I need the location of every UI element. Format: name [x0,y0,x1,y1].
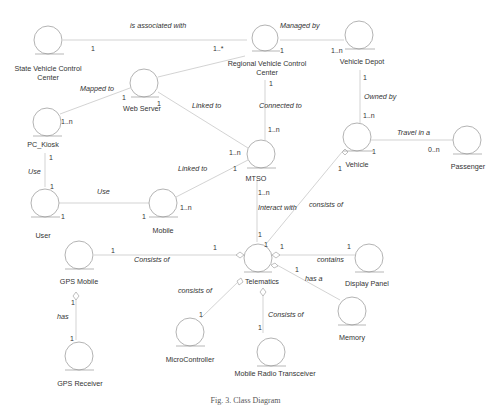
relation-label: is associated with [130,21,186,30]
relation-label: consists of [309,200,344,209]
multiplicity: 1 [372,148,376,155]
relation-label: has a [305,274,323,283]
relation-label: Travel in a [397,128,430,137]
class-label: MicroController [166,355,215,364]
line-vehicle-telematics [266,152,342,244]
class-circle-web-server[interactable] [130,69,158,97]
class-label: Center [256,68,278,77]
multiplicity: 0..n [428,146,440,153]
relation-label: Managed by [280,21,320,30]
class-circle-gps-receiver[interactable] [65,342,93,370]
multiplicity: 1 [142,213,146,220]
multiplicity: 1 [347,243,351,250]
class-labels: State Vehicle Control Center Regional Ve… [14,57,485,388]
relation-label: contains [317,255,344,264]
class-label: Mobile Radio Transceiver [234,369,316,378]
relation-label: Consists of [268,310,305,319]
class-label: Passenger [451,162,486,171]
multiplicity: 1 [71,299,75,306]
baseline-bars [31,49,482,370]
multiplicity: 1 [49,154,53,161]
multiplicity: 1 [338,165,342,172]
class-circle-microcontroller[interactable] [176,318,204,346]
multiplicity: 1..n [268,126,280,133]
multiplicity: 1..n [363,112,375,119]
multiplicity: 1 [199,311,203,318]
class-circle-display-panel[interactable] [355,244,383,272]
class-circle-depot[interactable] [345,21,373,49]
class-circle-vehicle[interactable] [343,123,371,151]
class-circle-mobile[interactable] [149,189,177,217]
class-label: Telematics [245,277,279,286]
multiplicity: 1..n [331,47,343,54]
class-label: Vehicle Depot [340,57,384,66]
relation-label: has [57,312,69,321]
class-circle-gps-mobile[interactable] [65,241,93,269]
class-circle-memory[interactable] [338,297,366,325]
relation-label: Use [97,187,110,196]
multiplicity: 1..n [61,118,73,125]
relation-label: Owned by [364,92,397,101]
multiplicity: 1 [258,231,262,238]
class-circle-mtso[interactable] [247,140,275,168]
class-label: MTSO [246,174,267,183]
relation-label: Consists of [134,255,171,264]
multiplicity: 1 [111,247,115,254]
multiplicity: 1..n [229,149,241,156]
class-label: GPS Receiver [57,379,103,388]
multiplicity: 1 [269,80,273,87]
class-circle-telematics[interactable] [244,244,272,272]
class-label: Memory [339,333,365,342]
class-label: GPS Mobile [60,277,98,286]
class-circle-passenger[interactable] [453,126,481,154]
multiplicity: 1 [50,183,54,190]
class-label: PC_Kiosk [27,140,59,149]
relation-label: Linked to [178,164,207,173]
diamond-icon [260,288,266,296]
class-circle-pc-kiosk[interactable] [33,108,61,136]
relation-label: consists of [178,286,213,295]
relation-label: Connected to [259,101,302,110]
diamond-icon [271,263,278,268]
class-circle-radio-transceiver[interactable] [257,338,285,366]
class-circle-user[interactable] [31,189,59,217]
class-circle-rvcc[interactable] [252,25,278,51]
class-label: Center [37,73,59,82]
multiplicity: 1 [258,324,262,331]
multiplicity: 1 [91,45,95,52]
relation-label: Interact with [258,203,297,212]
class-label: Web Server [123,104,161,113]
multiplicity: 1 [233,165,237,172]
class-circle-svcc[interactable] [34,26,62,54]
multiplicity: 1 [122,94,126,101]
multiplicity: 1 [61,213,65,220]
multiplicity: 1..* [213,45,224,52]
diamond-icon [236,252,244,258]
class-label: Regional Vehicle Control [228,59,307,68]
relation-label: Use [28,167,41,176]
multiplicity: 1 [213,244,217,251]
relation-label: Linked to [192,101,221,110]
multiplicity: 1..n [180,204,192,211]
multiplicity: 1 [363,74,367,81]
class-label: Display Panel [345,279,389,288]
class-label: Mobile [152,226,173,235]
multiplicity: 1 [280,47,284,54]
multiplicity: 1..n [258,189,270,196]
multiplicity: 1 [70,335,74,342]
figure-caption: Fig. 3. Class Diagram [0,396,491,405]
class-label: User [35,231,51,240]
multiplicity: 1 [295,266,299,273]
relation-label: Mapped to [80,84,114,93]
multiplicity: 1 [157,100,161,107]
diamond-icon [237,278,243,285]
multiplicity: 1 [264,241,268,248]
multiplicity: 1 [280,243,284,250]
class-label: Vehicle [345,160,368,169]
class-label: State Vehicle Control [14,64,82,73]
diamond-icon [272,252,280,258]
diamond-icon [342,149,348,155]
